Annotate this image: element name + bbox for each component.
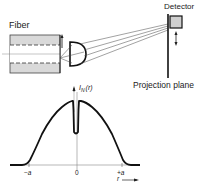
diagram-canvas <box>0 0 202 192</box>
r-axis-label: r <box>117 176 119 183</box>
tick-zero: 0 <box>75 170 79 177</box>
intensity-curve <box>10 101 140 165</box>
scan-arrow-icon <box>61 34 64 48</box>
detector-label: Detector <box>164 3 194 11</box>
fiber-label: Fiber <box>9 21 30 30</box>
detector-box <box>170 16 182 28</box>
intensity-axis-label: IN(r) <box>79 84 93 93</box>
intensity-subscript: N <box>81 87 85 93</box>
fiber <box>2 35 60 73</box>
intensity-plot <box>10 86 140 182</box>
tick-minus-a: −a <box>24 170 31 177</box>
projection-plane-label: Projection plane <box>133 81 194 90</box>
move-arrow-icon <box>175 31 178 46</box>
intensity-argument: (r) <box>86 84 93 91</box>
refracted-near-field-diagram: Fiber Detector Projection plane IN(r) −a… <box>0 0 202 192</box>
